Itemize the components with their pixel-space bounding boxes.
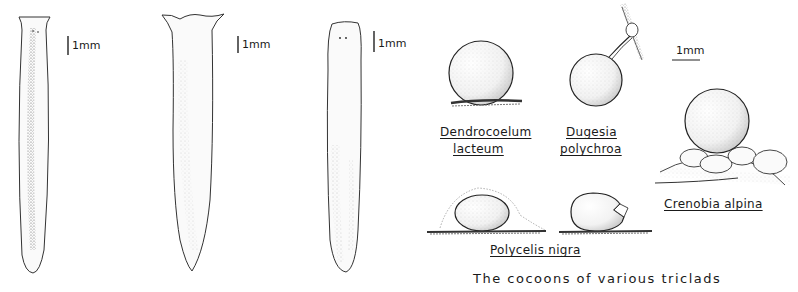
label-polycelis: Polycelis nigra [490, 243, 581, 257]
worm-3-drawing [327, 22, 361, 272]
scale-label-worm-2: 1mm [242, 38, 270, 51]
cocoon-polycelis-intact [427, 188, 546, 234]
label-crenobia: Crenobia alpina [664, 197, 763, 211]
label-dendrocoelum-line1: Dendrocoelum [440, 125, 531, 139]
figure-caption: The cocoons of various triclads [473, 271, 721, 286]
scale-label-worm-3: 1mm [378, 37, 406, 50]
label-dugesia-line2: polychroa [560, 142, 622, 156]
cocoon-crenobia [655, 89, 790, 185]
label-dendrocoelum-line2: lacteum [453, 142, 504, 156]
scale-label-worm-1: 1mm [72, 39, 100, 52]
cocoon-dendrocoelum [449, 41, 522, 106]
worm-2-drawing [162, 14, 224, 271]
scale-label-cocoon: 1mm [676, 44, 704, 57]
cocoon-polycelis-hatched [559, 193, 652, 234]
worm-1-drawing [19, 17, 50, 273]
cocoon-dugesia [570, 3, 644, 106]
label-dugesia-line1: Dugesia [566, 125, 617, 139]
